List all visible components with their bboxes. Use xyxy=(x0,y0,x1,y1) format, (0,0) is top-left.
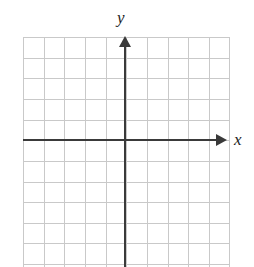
y-axis-line xyxy=(124,46,126,267)
x-axis-line xyxy=(23,139,219,141)
grid-line-horizontal xyxy=(23,264,230,265)
grid-line-vertical xyxy=(64,37,65,267)
grid-line-horizontal xyxy=(23,99,230,100)
y-axis-label: y xyxy=(117,9,125,26)
grid-line-horizontal xyxy=(23,243,230,244)
y-axis-arrow-icon xyxy=(119,36,131,47)
grid-line-vertical xyxy=(106,37,107,267)
grid-line-vertical xyxy=(44,37,45,267)
x-axis-arrow-icon xyxy=(216,134,227,146)
grid-line-horizontal xyxy=(23,78,230,79)
grid-line-vertical xyxy=(229,37,230,267)
grid-line-vertical xyxy=(147,37,148,267)
grid-line-vertical xyxy=(23,37,24,267)
grid-line-vertical xyxy=(188,37,189,267)
grid-line-vertical xyxy=(126,37,127,267)
grid-line-horizontal xyxy=(23,161,230,162)
grid-line-horizontal xyxy=(23,58,230,59)
grid-line-vertical xyxy=(168,37,169,267)
grid-line-vertical xyxy=(85,37,86,267)
grid-line-horizontal xyxy=(23,202,230,203)
grid xyxy=(23,37,230,267)
grid-line-horizontal xyxy=(23,223,230,224)
grid-line-horizontal xyxy=(23,182,230,183)
x-axis-label: x xyxy=(234,131,242,148)
grid-line-vertical xyxy=(209,37,210,267)
grid-line-horizontal xyxy=(23,120,230,121)
